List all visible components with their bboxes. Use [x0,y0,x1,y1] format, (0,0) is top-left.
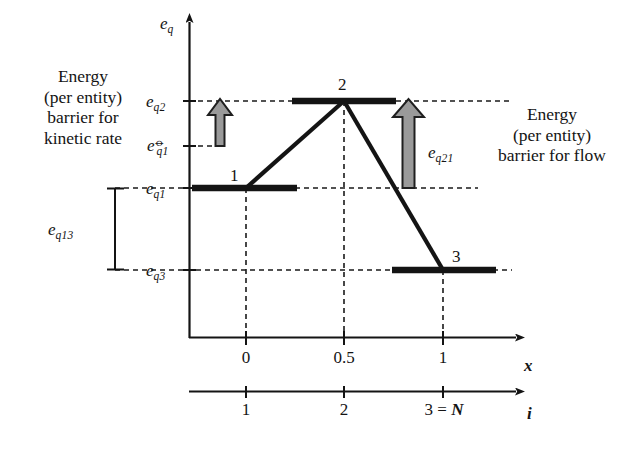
arrow-label-sub: q21 [436,152,454,164]
energy-diagram-figure: eq Energy (per entity) barrier for kinet… [0,0,620,449]
right-caption-line-3: barrier for flow [486,145,618,166]
kinetic-barrier-arrow [208,99,232,146]
right-caption-line-1: Energy [486,104,618,125]
index-axis-name: i [527,404,532,424]
state-label-1: 1 [230,166,239,186]
flow-barrier-arrow [393,99,424,188]
y-axis-label-base: e [160,14,168,33]
left-caption-line-2: (per entity) [8,87,158,108]
x-axis [189,331,516,345]
level-label-eq2-sub: q2 [154,101,166,113]
x-tick-label-0: 0 [226,348,266,368]
index-tick-label-1: 1 [226,400,266,420]
level-label-eq1-base: e [146,179,154,198]
y-axis [183,22,196,338]
bracket-label-eq13: eq13 [48,220,73,242]
path-segment-1-to-2 [246,101,344,188]
right-caption-line-2: (per entity) [486,125,618,146]
state-label-3: 3 [452,247,461,267]
y-axis-label-sub: q [168,23,174,35]
y-axis-label: eq [160,14,174,36]
right-caption: Energy (per entity) barrier for flow [486,104,618,166]
x-tick-label-0.5: 0.5 [324,348,364,368]
x-tick-label-1: 1 [423,348,463,368]
index-axis [189,386,516,398]
index-tick-label-2: 2 [324,400,364,420]
n-symbol: N [451,400,463,419]
left-caption-line-1: Energy [8,66,158,87]
state-label-2: 2 [338,75,347,95]
x-axis-name: x [524,356,533,376]
level-label-eq1-sub: q1 [154,188,166,200]
bracket-label-base: e [48,220,56,239]
level-label-eq2: eq2 [146,92,165,114]
path-segment-2-to-3 [344,101,443,270]
level-label-eq3-sub: q3 [154,270,166,282]
level-label-eq2-base: e [146,92,154,111]
level-label-eq1: eq1 [146,179,165,201]
level-label-eq1-std-base: e [147,136,155,155]
left-caption-line-3: barrier for [8,107,158,128]
arrow-label-base: e [428,143,436,162]
index-tick-label-3: 3 = N [412,400,476,420]
level-label-eq3-base: e [146,261,154,280]
arrow-label-eq21: eq21 [428,143,453,165]
level-label-eq1-std: e⦵q1 [147,135,168,158]
bracket-eq13 [107,188,124,270]
left-caption: Energy (per entity) barrier for kinetic … [8,66,158,149]
level-label-eq1-std-sub: q1 [157,145,169,157]
bracket-label-sub: q13 [56,229,74,241]
left-caption-line-4: kinetic rate [8,128,158,149]
level-label-eq3: eq3 [146,261,165,283]
index-tick-3-plain: 3 = [425,400,452,419]
